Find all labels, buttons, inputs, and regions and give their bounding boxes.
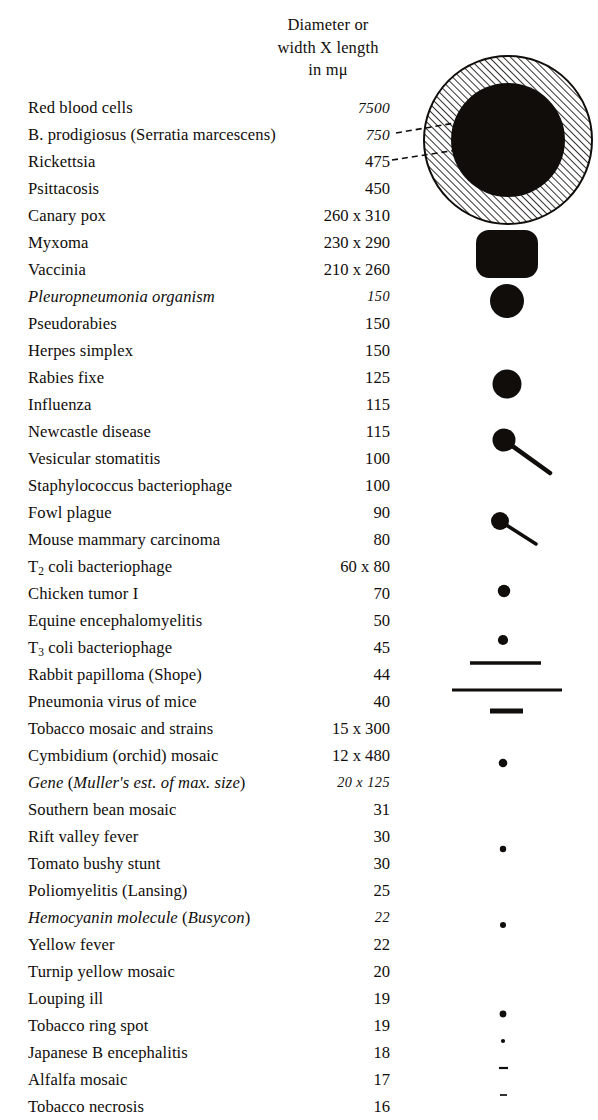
organism-label: Vesicular stomatitis [28,445,160,472]
table-row: Psittacosis450 [0,175,598,202]
table-row: Newcastle disease115 [0,418,598,445]
organism-label: Louping ill [28,985,103,1012]
size-value: 210 x 260 [230,256,390,283]
organism-label: Gene (Muller's est. of max. size) [28,769,246,796]
organism-label: Tobacco ring spot [28,1012,148,1039]
organism-label: Rickettsia [28,148,95,175]
size-value: 40 [230,688,390,715]
table-row: Myxoma230 x 290 [0,229,598,256]
table-row: Staphylococcus bacteriophage100 [0,472,598,499]
organism-label: Pleuropneumonia organism [28,283,215,310]
table-row: T2 coli bacteriophage60 x 80 [0,553,598,580]
size-value: 60 x 80 [230,553,390,580]
table-row: Canary pox260 x 310 [0,202,598,229]
size-value: 31 [230,796,390,823]
organism-label: Southern bean mosaic [28,796,177,823]
table-row: Tobacco ring spot19 [0,1012,598,1039]
size-value: 7500 [230,94,390,121]
organism-label: Newcastle disease [28,418,151,445]
organism-label: Tobacco mosaic and strains [28,715,213,742]
table-row: Herpes simplex150 [0,337,598,364]
size-value: 750 [230,121,390,148]
organism-label: Rabies fixe [28,364,104,391]
size-value: 12 x 480 [230,742,390,769]
organism-label: Tomato bushy stunt [28,850,160,877]
table-row: Influenza115 [0,391,598,418]
size-value: 100 [230,472,390,499]
organism-label: Pseudorabies [28,310,117,337]
size-value: 19 [230,985,390,1012]
size-value: 260 x 310 [230,202,390,229]
organism-label: Pneumonia virus of mice [28,688,197,715]
table-row: Pleuropneumonia organism150 [0,283,598,310]
size-value: 25 [230,877,390,904]
organism-label: Myxoma [28,229,89,256]
organism-label: Mouse mammary carcinoma [28,526,220,553]
table-row: B. prodigiosus (Serratia marcescens)750 [0,121,598,148]
organism-label: Hemocyanin molecule (Busycon) [28,904,250,931]
table-row: Cymbidium (orchid) mosaic12 x 480 [0,742,598,769]
table-row: T3 coli bacteriophage45 [0,634,598,661]
table-row: Tobacco necrosis16 [0,1093,598,1120]
size-value: 17 [230,1066,390,1093]
table-row: Mouse mammary carcinoma80 [0,526,598,553]
table-row: Tobacco mosaic and strains15 x 300 [0,715,598,742]
organism-label: Fowl plague [28,499,112,526]
size-value: 150 [230,310,390,337]
virus-size-table-figure: Diameter orwidth X lengthin mμ Red blood… [0,0,598,1120]
table-row: Pneumonia virus of mice40 [0,688,598,715]
size-value: 115 [230,418,390,445]
size-value: 30 [230,823,390,850]
size-value: 125 [230,364,390,391]
table-row: Poliomyelitis (Lansing)25 [0,877,598,904]
table-row: Yellow fever22 [0,931,598,958]
size-value: 450 [230,175,390,202]
size-value: 80 [230,526,390,553]
table-row: Alfalfa mosaic17 [0,1066,598,1093]
size-value: 15 x 300 [230,715,390,742]
size-value: 70 [230,580,390,607]
organism-label: Japanese B encephalitis [28,1039,188,1066]
table-row: Fowl plague90 [0,499,598,526]
organism-label: Canary pox [28,202,106,229]
size-value: 475 [230,148,390,175]
size-value: 19 [230,1012,390,1039]
size-value: 150 [230,283,390,310]
organism-label: Cymbidium (orchid) mosaic [28,742,219,769]
organism-label: Influenza [28,391,92,418]
size-value: 115 [230,391,390,418]
column-header: Diameter orwidth X lengthin mμ [258,14,398,82]
organism-label: Rabbit papilloma (Shope) [28,661,202,688]
column-header-line-2: width X length [258,37,398,60]
table-row: Hemocyanin molecule (Busycon)22 [0,904,598,931]
size-value: 20 [230,958,390,985]
size-value: 230 x 290 [230,229,390,256]
size-value: 100 [230,445,390,472]
organism-label: Alfalfa mosaic [28,1066,128,1093]
table-row: Tomato bushy stunt30 [0,850,598,877]
size-value: 18 [230,1039,390,1066]
table-row: Gene (Muller's est. of max. size)20 x 12… [0,769,598,796]
table-row: Rickettsia475 [0,148,598,175]
organism-label: Herpes simplex [28,337,133,364]
table-row: Rabbit papilloma (Shope)44 [0,661,598,688]
size-value: 20 x 125 [230,769,390,796]
organism-label: Rift valley fever [28,823,138,850]
organism-label: Staphylococcus bacteriophage [28,472,232,499]
table-row: Pseudorabies150 [0,310,598,337]
organism-label: Tobacco necrosis [28,1093,144,1120]
table-row: Rift valley fever30 [0,823,598,850]
organism-label: Vaccinia [28,256,86,283]
size-value: 16 [230,1093,390,1120]
column-header-line-3: in mμ [258,59,398,82]
table-row: Equine encephalomyelitis50 [0,607,598,634]
size-table-rows: Red blood cells7500B. prodigiosus (Serra… [0,94,598,1120]
size-value: 50 [230,607,390,634]
size-value: 30 [230,850,390,877]
size-value: 150 [230,337,390,364]
organism-label: Yellow fever [28,931,115,958]
organism-label: Chicken tumor I [28,580,138,607]
size-value: 22 [230,931,390,958]
organism-label: Psittacosis [28,175,99,202]
size-value: 22 [230,904,390,931]
